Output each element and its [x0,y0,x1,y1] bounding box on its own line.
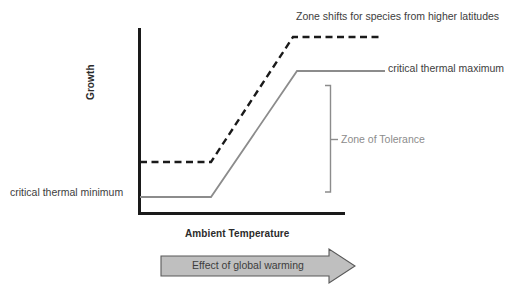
figure-container: Zone shifts for species from higher lati… [0,0,528,289]
growth-vs-temperature-diagram [0,0,528,289]
annotation-zone-shift: Zone shifts for species from higher lati… [296,11,499,22]
annotation-critical-thermal-minimum: critical thermal minimum [10,187,123,198]
x-axis-title: Ambient Temperature [185,229,290,239]
y-axis-title: Growth [86,64,96,100]
global-warming-arrow-label: Effect of global warming [192,260,304,271]
zone-of-tolerance-bracket [325,86,331,193]
annotation-zone-of-tolerance: Zone of Tolerance [341,134,425,145]
annotation-critical-thermal-maximum: critical thermal maximum [388,63,504,74]
